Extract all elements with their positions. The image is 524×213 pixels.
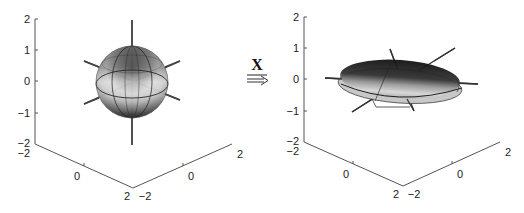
ellipsoid (337, 56, 463, 107)
figure-canvas: 2 1 0 −1 −2 −2 0 2 −2 0 2 (0, 0, 524, 213)
z-tick-label: 0 (24, 75, 30, 87)
y-tick-label: −2 (408, 188, 421, 200)
left-plot: 2 1 0 −1 −2 −2 0 2 −2 0 2 (17, 13, 243, 202)
z-tick-label: 2 (24, 13, 30, 25)
z-tick-label: 1 (293, 42, 299, 54)
y-tick-label: 2 (237, 148, 243, 160)
z-tick-label: 2 (293, 11, 299, 23)
x-tick-label: 2 (393, 188, 399, 200)
y-tick-label: 0 (457, 168, 463, 180)
y-tick-label: 2 (505, 146, 511, 158)
z-tick-label: 0 (293, 73, 299, 85)
z-tick-label: −1 (286, 105, 299, 117)
z-tick-label: −1 (17, 107, 30, 119)
unit-sphere (96, 46, 168, 118)
x-tick-label: −2 (17, 147, 30, 159)
x-tick-label: 0 (343, 168, 349, 180)
x-tick-label: 0 (74, 170, 80, 182)
y-tick-label: −2 (139, 190, 152, 202)
transform-label: X (251, 56, 263, 73)
right-plot: 2 1 0 −1 −2 −2 0 2 −2 0 2 (286, 11, 511, 200)
y-tick-label: 0 (188, 170, 194, 182)
transform-arrow: X (247, 56, 268, 85)
x-tick-label: −2 (286, 145, 299, 157)
z-tick-label: 1 (24, 44, 30, 56)
x-tick-label: 2 (124, 190, 130, 202)
